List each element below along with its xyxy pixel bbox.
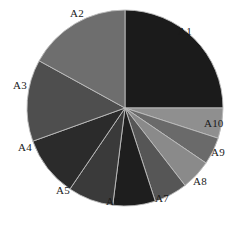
- pie-chart-canvas: [0, 0, 248, 225]
- pie-slice-label-a5: A5: [56, 185, 70, 196]
- pie-slice-label-a3: A3: [13, 80, 27, 91]
- pie-slice-label-a4: A4: [18, 142, 32, 153]
- pie-slice-label-a1: A1: [178, 26, 192, 37]
- pie-chart-figure: A1 A2 A3 A4 A5 A6 A7 A8 A9 A10: [0, 0, 248, 225]
- pie-slice-label-a7: A7: [155, 193, 169, 204]
- pie-slice-a1[interactable]: [125, 10, 223, 108]
- pie-slice-label-a8: A8: [193, 176, 207, 187]
- pie-slice-label-a9: A9: [211, 147, 225, 158]
- pie-slice-label-a2: A2: [70, 8, 84, 19]
- pie-slice-label-a10: A10: [204, 118, 224, 129]
- pie-slice-label-a6: A6: [106, 196, 120, 207]
